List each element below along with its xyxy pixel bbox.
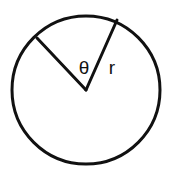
right-radius-line [86, 20, 117, 90]
figure-canvas: θ r [0, 0, 174, 183]
circle-sector-diagram: θ r [0, 0, 174, 183]
angle-label-theta: θ [79, 57, 90, 78]
radius-label-r: r [109, 57, 116, 78]
